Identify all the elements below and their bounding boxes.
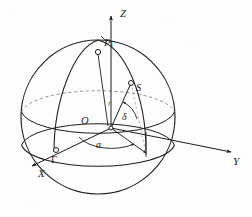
equator-back-dashed: [22, 91, 175, 112]
origin-point-marker: [109, 126, 113, 130]
axis-label-x: X: [38, 168, 45, 179]
point-label-pole: PΓ: [104, 38, 115, 49]
pole-subscript: Γ: [110, 40, 114, 49]
axis-label-y: Y: [233, 156, 239, 167]
meridian-arc-gamma: [54, 40, 98, 152]
meridian-arc-star: [98, 40, 146, 151]
axis-label-z: Z: [120, 8, 126, 19]
angle-label-alpha: α: [96, 140, 101, 150]
pole-point-marker: [95, 49, 100, 54]
point-label-vernal-equinox: Γ: [51, 155, 57, 166]
axis-y-line: [111, 128, 231, 152]
star-point-marker: [129, 81, 134, 86]
sphere-drawing: [0, 0, 252, 217]
pole-to-center-line: [98, 54, 108, 126]
segment-label-radius: r: [108, 100, 111, 108]
angle-label-delta: δ: [122, 112, 127, 122]
point-label-star: S: [136, 83, 141, 94]
vernal-equinox-marker: [54, 148, 59, 153]
point-label-origin: O: [81, 116, 89, 127]
celestial-sphere-figure: … … … …: [0, 0, 252, 217]
